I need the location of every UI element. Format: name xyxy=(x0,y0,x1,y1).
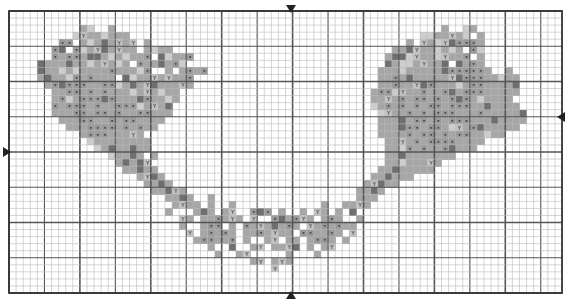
left-center-arrow-icon xyxy=(3,146,15,158)
cross-stitch-chart: YY••YYYY•••••YYY••••••YY•Y••Y•••••••••••… xyxy=(9,11,562,293)
right-center-arrow-icon xyxy=(553,111,565,123)
bottom-center-arrow-icon xyxy=(285,287,297,299)
grid-lines xyxy=(8,10,563,294)
top-center-arrow-icon xyxy=(285,5,297,17)
